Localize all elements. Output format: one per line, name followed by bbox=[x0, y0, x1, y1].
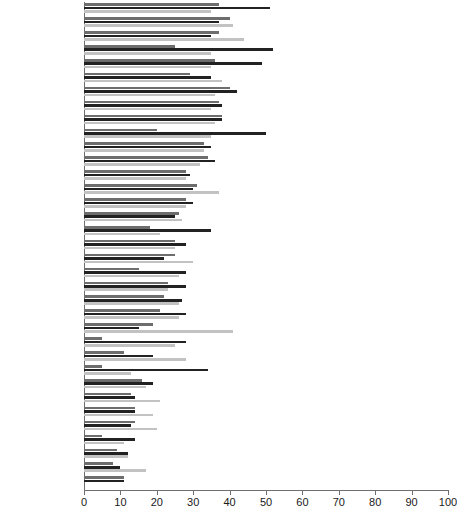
bar-series-3 bbox=[84, 108, 211, 111]
bar-series-1 bbox=[84, 129, 157, 132]
bar-series-1 bbox=[84, 337, 102, 340]
bar-series-3 bbox=[84, 52, 211, 55]
bar-series-1 bbox=[84, 365, 102, 368]
bar-series-3 bbox=[84, 288, 168, 291]
bar-series-1 bbox=[84, 31, 219, 34]
x-tick-label: 90 bbox=[405, 496, 417, 508]
bar-series-3 bbox=[84, 219, 182, 222]
bar-series-3 bbox=[84, 330, 233, 333]
bar-series-2 bbox=[84, 104, 222, 107]
bar-series-3 bbox=[84, 10, 211, 13]
bar-series-2 bbox=[84, 424, 131, 427]
bar-series-2 bbox=[84, 396, 135, 399]
bar-series-2 bbox=[84, 160, 215, 163]
bar-row: New Zealand bbox=[0, 155, 456, 169]
x-tick-0 bbox=[84, 490, 85, 495]
bar-series-1 bbox=[84, 198, 186, 201]
bar-series-1 bbox=[84, 115, 222, 118]
bar-series-1 bbox=[84, 59, 215, 62]
x-tick-label: 100 bbox=[439, 496, 457, 508]
bar-row: Iceland bbox=[0, 30, 456, 44]
bar-series-3 bbox=[84, 414, 153, 417]
x-tick-label: 80 bbox=[369, 496, 381, 508]
bar-series-2 bbox=[84, 243, 186, 246]
bar-row: Hungary bbox=[0, 475, 456, 489]
bar-series-1 bbox=[84, 462, 113, 465]
bar-row: Denmark bbox=[0, 85, 456, 99]
bar-series-1 bbox=[84, 393, 131, 396]
x-tick-30 bbox=[193, 490, 194, 495]
bar-series-1 bbox=[84, 449, 117, 452]
bar-series-1 bbox=[84, 435, 102, 438]
bar-series-2 bbox=[84, 410, 135, 413]
bar-series-1 bbox=[84, 240, 175, 243]
x-tick-50 bbox=[266, 490, 267, 495]
bar-row: Switzerland bbox=[0, 225, 456, 239]
bar-row: Italy bbox=[0, 169, 456, 183]
bar-row: Sweden bbox=[0, 2, 456, 16]
bar-series-2 bbox=[84, 271, 186, 274]
bar-series-1 bbox=[84, 282, 168, 285]
x-tick-label: 70 bbox=[333, 496, 345, 508]
bar-series-2 bbox=[84, 188, 193, 191]
bar-series-2 bbox=[84, 341, 186, 344]
bar-series-1 bbox=[84, 323, 153, 326]
bar-series-1 bbox=[84, 407, 135, 410]
bar-series-2 bbox=[84, 90, 237, 93]
bar-series-3 bbox=[84, 38, 244, 41]
bar-row: Portugal bbox=[0, 266, 456, 280]
bar-series-2 bbox=[84, 452, 128, 455]
bar-row: Norway bbox=[0, 16, 456, 30]
bar-series-3 bbox=[84, 149, 204, 152]
bar-row: United States bbox=[0, 378, 456, 392]
bar-row: Turkey bbox=[0, 433, 456, 447]
bar-series-3 bbox=[84, 302, 179, 305]
bar-series-3 bbox=[84, 163, 200, 166]
bar-series-3 bbox=[84, 233, 160, 236]
bar-series-3 bbox=[84, 442, 124, 445]
bar-series-1 bbox=[84, 170, 186, 173]
bar-series-3 bbox=[84, 469, 146, 472]
x-tick-label: 50 bbox=[260, 496, 272, 508]
bar-series-3 bbox=[84, 358, 186, 361]
bar-series-2 bbox=[84, 480, 124, 483]
x-tick-label: 20 bbox=[151, 496, 163, 508]
bar-series-2 bbox=[84, 299, 182, 302]
bar-series-2 bbox=[84, 313, 186, 316]
bar-series-2 bbox=[84, 35, 211, 38]
bar-row: Czech Republic bbox=[0, 419, 456, 433]
bar-series-2 bbox=[84, 7, 270, 10]
bar-series-3 bbox=[84, 261, 193, 264]
x-tick-label: 40 bbox=[223, 496, 235, 508]
bar-series-1 bbox=[84, 295, 164, 298]
bar-series-1 bbox=[84, 184, 197, 187]
bar-series-1 bbox=[84, 156, 208, 159]
bar-series-2 bbox=[84, 355, 153, 358]
bar-series-1 bbox=[84, 476, 124, 479]
bar-series-3 bbox=[84, 428, 157, 431]
bar-row: Estonia bbox=[0, 336, 456, 350]
x-tick-60 bbox=[302, 490, 303, 495]
x-tick-90 bbox=[412, 490, 413, 495]
bar-row: Austria bbox=[0, 252, 456, 266]
bar-series-1 bbox=[84, 379, 142, 382]
bar-series-2 bbox=[84, 146, 211, 149]
bar-series-3 bbox=[84, 94, 215, 97]
bar-series-1 bbox=[84, 73, 190, 76]
bar-series-3 bbox=[84, 455, 128, 458]
bar-series-2 bbox=[84, 202, 193, 205]
bar-row: Israel bbox=[0, 308, 456, 322]
bar-series-1 bbox=[84, 87, 230, 90]
x-tick-10 bbox=[120, 490, 121, 495]
bar-series-3 bbox=[84, 80, 222, 83]
bar-row: Canada bbox=[0, 127, 456, 141]
bar-series-3 bbox=[84, 24, 233, 27]
bar-row: Finland bbox=[0, 72, 456, 86]
bar-row: Spain bbox=[0, 113, 456, 127]
bar-row: Belgium bbox=[0, 183, 456, 197]
bar-row: United Kingdom bbox=[0, 197, 456, 211]
bar-series-1 bbox=[84, 212, 179, 215]
bar-row: Japan bbox=[0, 447, 456, 461]
bar-series-2 bbox=[84, 215, 175, 218]
bar-series-3 bbox=[84, 400, 160, 403]
